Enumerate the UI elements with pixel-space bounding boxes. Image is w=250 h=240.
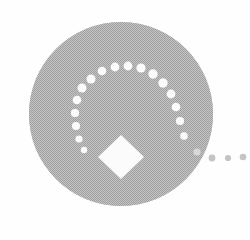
spiral-dot xyxy=(148,69,157,78)
edge-dot-group xyxy=(193,148,200,155)
spiral-dot xyxy=(73,96,82,105)
spiral-dot xyxy=(172,103,181,112)
spiral-dot xyxy=(124,62,133,71)
spiral-dot xyxy=(98,67,107,76)
spiral-dot xyxy=(111,63,120,72)
spiral-dot xyxy=(72,122,80,130)
spiral-dot xyxy=(87,75,96,84)
trailing-dot xyxy=(209,155,216,162)
spiral-dot xyxy=(78,84,87,93)
spiral-dot xyxy=(158,78,167,87)
spiral-dot xyxy=(136,63,145,72)
graphic-canvas: Spiral Dot Emblem xyxy=(0,0,250,240)
disc-edge-dot xyxy=(193,148,200,155)
spiral-dot xyxy=(81,147,87,153)
trailing-dot xyxy=(225,155,231,161)
spiral-dot-logo xyxy=(0,0,250,240)
spiral-dot xyxy=(180,132,188,140)
trailing-dot xyxy=(240,154,247,161)
spiral-dot xyxy=(71,109,79,117)
spiral-dot xyxy=(176,117,184,125)
spiral-dot xyxy=(75,135,82,142)
spiral-dot xyxy=(167,90,176,99)
